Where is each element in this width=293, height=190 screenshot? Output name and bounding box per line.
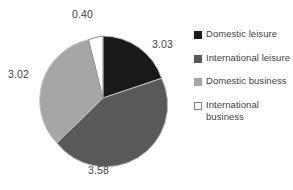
legend-item-international-business[interactable]: International business <box>194 99 293 124</box>
legend-item-international-leisure[interactable]: International leisure <box>194 52 293 65</box>
legend-swatch-icon <box>194 78 202 86</box>
legend-swatch-icon <box>194 55 202 63</box>
legend-item-label: Domestic business <box>206 75 287 88</box>
data-label-international-leisure: 3.58 <box>88 164 109 176</box>
data-label-international-business: 0.40 <box>72 8 93 20</box>
legend-item-domestic-leisure[interactable]: Domestic leisure <box>194 28 293 41</box>
legend-item-label: International business <box>206 99 293 124</box>
legend-item-label: Domestic leisure <box>206 28 277 41</box>
legend: Domestic leisure International leisure D… <box>194 28 293 135</box>
legend-item-domestic-business[interactable]: Domestic business <box>194 75 293 88</box>
legend-item-label: International leisure <box>206 52 290 65</box>
data-label-domestic-leisure: 3.03 <box>152 38 173 50</box>
pie-plot-area: 3.03 3.58 3.02 0.40 <box>0 0 190 190</box>
pie-svg <box>0 0 190 190</box>
legend-swatch-icon <box>194 102 202 110</box>
legend-swatch-icon <box>194 31 202 39</box>
data-label-domestic-business: 3.02 <box>8 68 29 80</box>
pie-chart: 3.03 3.58 3.02 0.40 Domestic leisure Int… <box>0 0 293 190</box>
